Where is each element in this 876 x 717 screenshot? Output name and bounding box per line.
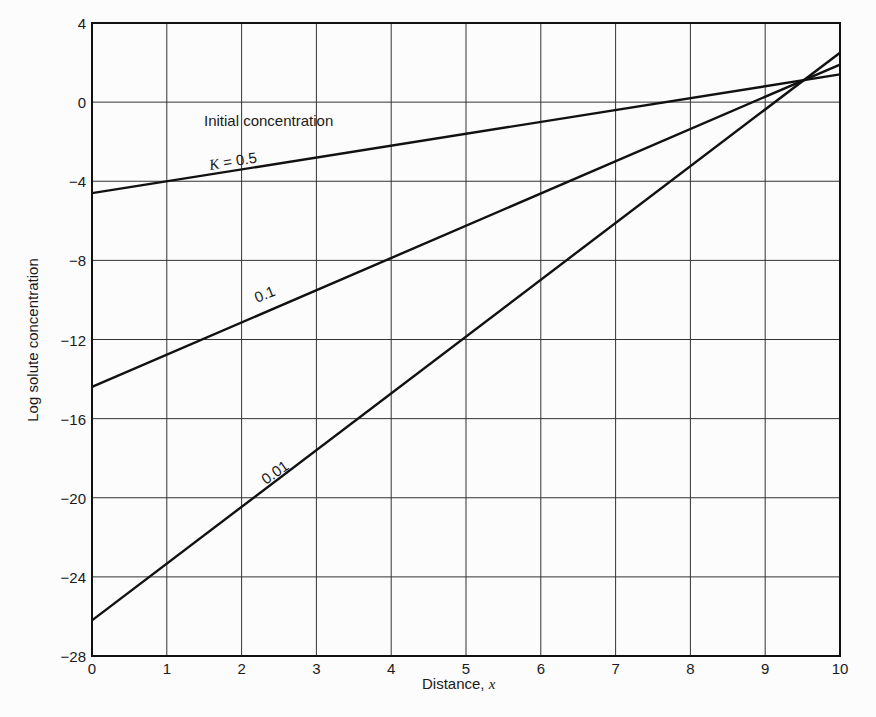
x-axis-label: Distance, x bbox=[422, 675, 496, 692]
chart: 012345678910 40−4−8−12−16−20−24−28 Dista… bbox=[0, 0, 876, 717]
y-tick-label: 4 bbox=[78, 15, 86, 32]
y-tick-label: −12 bbox=[61, 332, 86, 349]
y-tick-label: −20 bbox=[61, 490, 86, 507]
x-tick-label: 6 bbox=[537, 660, 545, 677]
x-tick-label: 2 bbox=[237, 660, 245, 677]
y-tick-label: −16 bbox=[61, 411, 86, 428]
y-axis-label: Log solute concentration bbox=[24, 258, 41, 421]
y-tick-label: −8 bbox=[69, 252, 86, 269]
x-tick-label: 3 bbox=[312, 660, 320, 677]
annotation-initial-concentration: Initial concentration bbox=[204, 112, 333, 129]
x-tick-label: 10 bbox=[832, 660, 849, 677]
x-tick-label: 7 bbox=[611, 660, 619, 677]
x-tick-label: 8 bbox=[686, 660, 694, 677]
x-tick-label: 0 bbox=[88, 660, 96, 677]
y-tick-label: −28 bbox=[61, 648, 86, 665]
y-tick-label: 0 bbox=[78, 94, 86, 111]
y-tick-label: −24 bbox=[61, 569, 86, 586]
x-tick-label: 9 bbox=[761, 660, 769, 677]
y-tick-label: −4 bbox=[69, 173, 86, 190]
x-tick-label: 1 bbox=[163, 660, 171, 677]
annotation-k-0.5: K = 0.5 bbox=[207, 149, 258, 173]
x-tick-label: 4 bbox=[387, 660, 395, 677]
annotation-k-0.1: 0.1 bbox=[252, 282, 278, 306]
y-tick-labels: 40−4−8−12−16−20−24−28 bbox=[61, 15, 86, 665]
